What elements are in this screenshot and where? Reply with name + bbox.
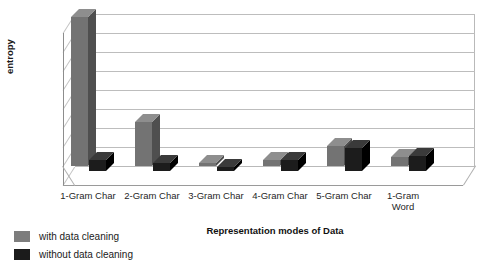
bar-without-cleaning <box>217 167 234 171</box>
bar-front-face <box>263 160 280 166</box>
chart-legend: with data cleaning without data cleaning <box>14 228 133 264</box>
bar-with-cleaning <box>135 122 152 166</box>
bar-with-cleaning <box>199 163 216 166</box>
bar-front-face <box>327 146 344 166</box>
bar-front-face <box>199 163 216 166</box>
bar-with-cleaning <box>327 146 344 166</box>
gridline <box>75 52 475 53</box>
bar-without-cleaning <box>409 156 426 171</box>
floor-left-edge <box>63 166 75 185</box>
x-tick-label: 4-Gram Char <box>246 190 314 201</box>
bar-front-face <box>71 17 88 166</box>
bar-front-face <box>217 167 234 171</box>
x-tick-label: 1-Gram Word <box>380 190 426 212</box>
legend-swatch-with-cleaning <box>14 231 30 242</box>
bar-without-cleaning <box>281 160 298 171</box>
bar-front-face <box>409 156 426 171</box>
legend-item-without-cleaning: without data cleaning <box>14 246 133 262</box>
plot-area <box>63 14 475 185</box>
legend-label-without-cleaning: without data cleaning <box>39 249 133 260</box>
legend-label-with-cleaning: with data cleaning <box>39 231 119 242</box>
y-axis-line <box>63 33 64 185</box>
bar-without-cleaning <box>89 160 106 171</box>
bar-with-cleaning <box>263 160 280 166</box>
bar-with-cleaning <box>391 157 408 166</box>
bar-front-face <box>391 157 408 166</box>
y-axis-title: entropy <box>4 39 15 74</box>
gridline <box>75 90 475 91</box>
bar-front-face <box>345 148 362 171</box>
x-tick-label: 5-Gram Char <box>310 190 378 201</box>
gridline <box>75 14 475 15</box>
x-tick-label: 1-Gram Char <box>54 190 122 201</box>
gridline <box>75 109 475 110</box>
bar-front-face <box>89 160 106 171</box>
x-axis-title-text: Representation modes of Data <box>146 225 343 236</box>
x-tick-label: 2-Gram Char <box>118 190 186 201</box>
bar-without-cleaning <box>153 163 170 171</box>
bar-side-face <box>88 9 96 166</box>
gridline <box>75 71 475 72</box>
legend-item-with-cleaning: with data cleaning <box>14 228 133 244</box>
bar-without-cleaning <box>345 148 362 171</box>
floor-front-edge <box>63 185 463 186</box>
bar-front-face <box>153 163 170 171</box>
legend-swatch-without-cleaning <box>14 249 30 260</box>
bar-front-face <box>135 122 152 166</box>
bar-with-cleaning <box>71 17 88 166</box>
bar-front-face <box>281 160 298 171</box>
entropy-bar-chart: 0.160.140.120.10.080.060.040.020 entropy… <box>0 0 490 275</box>
x-tick-label: 3-Gram Char <box>182 190 250 201</box>
floor-right-edge <box>463 166 475 185</box>
gridline <box>75 33 475 34</box>
